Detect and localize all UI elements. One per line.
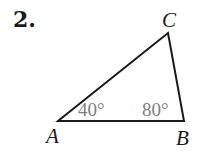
angle-label-a: 40° [78, 99, 105, 120]
vertex-label-c: C [162, 8, 177, 32]
vertex-label-a: A [44, 124, 59, 148]
angle-label-b: 80° [142, 99, 169, 120]
triangle-diagram: A B C 40° 80° [0, 0, 200, 156]
vertex-label-b: B [176, 126, 189, 150]
